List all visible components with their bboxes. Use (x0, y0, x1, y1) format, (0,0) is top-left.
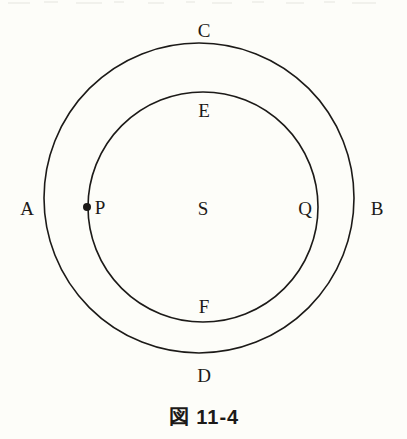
label-c: C (198, 21, 211, 40)
figure-caption: 図 11-4 (169, 401, 239, 430)
label-f: F (199, 297, 210, 316)
label-e: E (198, 101, 210, 120)
point-p-dot (83, 203, 91, 211)
label-s: S (198, 199, 209, 218)
label-d: D (197, 366, 211, 385)
label-b: B (371, 199, 384, 218)
figure-container: A B C D E F P Q S 図 11-4 (0, 0, 407, 439)
label-a: A (20, 199, 34, 218)
label-p: P (95, 198, 106, 217)
label-q: Q (298, 199, 312, 218)
